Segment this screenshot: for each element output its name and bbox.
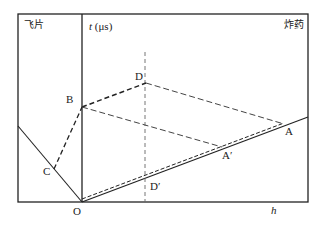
dashed-CB bbox=[54, 107, 82, 169]
point-D-label: D bbox=[135, 71, 143, 82]
t-axis-var: t bbox=[89, 20, 92, 32]
dashed-DA bbox=[146, 83, 284, 124]
dashed-OA bbox=[82, 123, 284, 199]
dashed-BD bbox=[82, 83, 146, 107]
point-A-label: A bbox=[285, 126, 293, 137]
dashed-BA-prime bbox=[82, 107, 222, 147]
h-axis-label: h bbox=[271, 205, 277, 216]
t-axis-unit: (μs) bbox=[95, 20, 113, 32]
origin-label: O bbox=[73, 206, 81, 217]
t-axis-label: t (μs) bbox=[89, 21, 112, 32]
point-D-prime-label: D′ bbox=[150, 181, 160, 192]
wave-diagram bbox=[0, 0, 325, 226]
point-B-label: B bbox=[66, 94, 73, 105]
diagram-frame bbox=[18, 14, 308, 202]
flyer-line bbox=[18, 126, 82, 202]
shock-line bbox=[82, 117, 308, 202]
point-A-prime-label: A′ bbox=[222, 150, 232, 161]
region-label-explosive: 炸药 bbox=[284, 20, 304, 30]
region-label-flyer: 飞片 bbox=[24, 20, 44, 30]
point-C-label: C bbox=[43, 166, 50, 177]
